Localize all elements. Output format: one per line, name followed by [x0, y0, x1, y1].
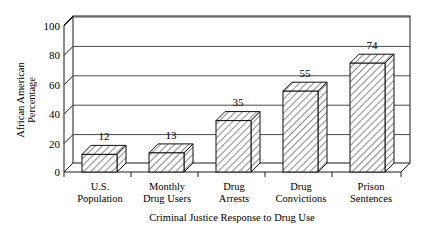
y-tick-label-100: 100: [44, 20, 61, 32]
y-tick-label-60: 60: [49, 79, 61, 91]
bar-front-face-2: [216, 121, 251, 172]
bar-front-face-4: [350, 63, 385, 172]
y-tick-label-40: 40: [49, 108, 61, 120]
bar-front-face-3: [283, 91, 318, 172]
category-label-4-line1: Prison: [358, 181, 386, 192]
bar-value-label-2: 35: [233, 96, 245, 108]
bar-side-face-2: [251, 112, 260, 172]
y-axis-title-line1: African American: [15, 62, 26, 138]
category-label-2-line1: Drug: [223, 181, 245, 192]
bar-value-label-1: 13: [166, 129, 178, 141]
bar-value-label-3: 55: [300, 67, 312, 79]
category-label-3-line2: Convictions: [276, 193, 327, 204]
bar-side-face-4: [385, 54, 394, 172]
bar-front-face-1: [149, 153, 184, 172]
bar-front-face-0: [82, 154, 117, 172]
category-label-4-line2: Sentences: [350, 193, 392, 204]
chart-container: 0 20 40 60 80 100 African American Perce…: [0, 0, 445, 228]
bar-side-face-3: [318, 82, 327, 172]
y-tick-label-20: 20: [49, 138, 61, 150]
category-label-1-line1: Monthly: [149, 181, 186, 192]
category-label-3-line1: Drug: [290, 181, 312, 192]
y-tick-label-0: 0: [55, 166, 61, 178]
y-tick-label-80: 80: [49, 49, 61, 61]
bar-value-label-4: 74: [367, 39, 379, 51]
bar-value-label-0: 12: [99, 130, 110, 142]
bar-chart-svg: 0 20 40 60 80 100 African American Perce…: [0, 0, 445, 228]
category-label-1-line2: Drug Users: [143, 193, 191, 204]
bar-group-4[interactable]: 74: [350, 39, 394, 172]
category-label-0-line1: U.S.: [91, 181, 110, 192]
y-axis-title-line2: Percentage: [26, 77, 37, 123]
x-axis-title: Criminal Justice Response to Drug Use: [149, 212, 315, 223]
category-label-0-line2: Population: [77, 193, 123, 204]
category-label-2-line2: Arrests: [219, 193, 249, 204]
